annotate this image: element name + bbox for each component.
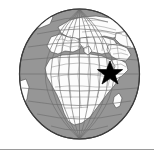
horizontal-divider (0, 149, 154, 150)
globe-figure: Orthographic globe locator map (0, 0, 154, 146)
globe-map-graphic: Orthographic globe locator map (18, 7, 141, 141)
globe-locator-figure-page: Orthographic globe locator map (0, 0, 154, 158)
figure-description: Shaded globe centred on Africa and Europ… (0, 0, 1, 1)
